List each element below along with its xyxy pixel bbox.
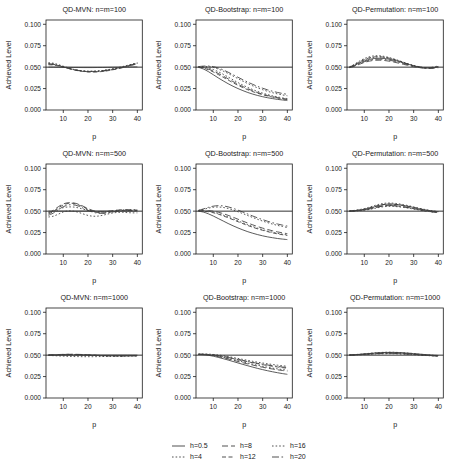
y-tick-label: 0.025 — [325, 373, 342, 380]
figure-legend: h=0.5h=8h=16h=4h=12h=20 — [0, 432, 451, 471]
y-axis-title: Achieved Level — [154, 40, 163, 89]
series-group — [48, 354, 137, 356]
series-group — [199, 66, 288, 101]
y-tick-label: 0.050 — [175, 64, 192, 71]
series-line — [199, 206, 288, 226]
series-line — [199, 67, 288, 99]
plot-frame — [196, 308, 292, 398]
y-tick-label: 0.000 — [25, 394, 42, 401]
x-axis-title: p — [242, 276, 246, 285]
x-tick-label: 30 — [259, 259, 267, 266]
y-tick-label: 0.000 — [25, 250, 42, 257]
legend-label: h=20 — [290, 453, 306, 460]
y-axis-title: Achieved Level — [305, 40, 314, 89]
legend-label: h=16 — [290, 442, 306, 449]
y-tick-label: 0.050 — [25, 352, 42, 359]
achieved-level-panel-figure: QD-MVN: n=m=1000.0000.0250.0500.0750.100… — [0, 0, 451, 471]
y-axis-title: Achieved Level — [305, 328, 314, 377]
y-tick-label: 0.075 — [25, 330, 42, 337]
y-tick-label: 0.025 — [25, 229, 42, 236]
y-tick-label: 0.050 — [325, 64, 342, 71]
y-tick-label: 0.075 — [325, 42, 342, 49]
plot-frame — [46, 308, 142, 398]
x-tick-label: 20 — [385, 403, 393, 410]
y-tick-label: 0.025 — [175, 373, 192, 380]
x-axis-title: p — [393, 420, 397, 429]
series-line — [199, 211, 288, 239]
y-axis-title: Achieved Level — [4, 328, 13, 377]
y-tick-label: 0.050 — [25, 208, 42, 215]
y-tick-label: 0.000 — [175, 250, 192, 257]
y-tick-label: 0.000 — [175, 394, 192, 401]
y-tick-label: 0.075 — [25, 42, 42, 49]
chart-panel: QD-Bootstrap: n=m=1000.0000.0250.0500.07… — [150, 0, 300, 144]
x-tick-label: 30 — [109, 115, 117, 122]
y-tick-label: 0.025 — [175, 85, 192, 92]
x-axis-title: p — [92, 420, 96, 429]
x-tick-label: 10 — [60, 259, 68, 266]
x-tick-label: 10 — [360, 259, 368, 266]
series-group — [48, 203, 137, 217]
panel-title: QD-Bootstrap: n=m=1000 — [203, 293, 285, 302]
x-tick-label: 10 — [210, 259, 218, 266]
y-tick-label: 0.000 — [325, 394, 342, 401]
x-tick-label: 40 — [134, 115, 142, 122]
x-tick-label: 20 — [235, 403, 243, 410]
panel-title: QD-MVN: n=m=500 — [62, 149, 126, 158]
panel-grid: QD-MVN: n=m=1000.0000.0250.0500.0750.100… — [0, 0, 451, 432]
x-tick-label: 20 — [385, 259, 393, 266]
y-tick-label: 0.050 — [25, 64, 42, 71]
series-group — [349, 56, 438, 69]
chart-panel: QD-Permutation: n=m=1000.0000.0250.0500.… — [301, 0, 451, 144]
x-tick-label: 30 — [410, 115, 418, 122]
legend-label: h=0.5 — [190, 442, 208, 449]
y-tick-label: 0.075 — [175, 42, 192, 49]
x-axis-title: p — [393, 276, 397, 285]
x-axis-title: p — [92, 276, 96, 285]
y-tick-label: 0.075 — [175, 186, 192, 193]
x-tick-label: 40 — [434, 403, 442, 410]
x-axis-title: p — [393, 132, 397, 141]
chart-panel: QD-Permutation: n=m=10000.0000.0250.0500… — [301, 288, 451, 432]
y-tick-label: 0.100 — [325, 165, 342, 172]
y-axis-title: Achieved Level — [154, 328, 163, 377]
y-tick-label: 0.075 — [25, 186, 42, 193]
series-line — [48, 203, 137, 214]
y-tick-label: 0.100 — [25, 165, 42, 172]
series-line — [199, 207, 288, 227]
y-tick-label: 0.100 — [325, 21, 342, 28]
legend-label: h=4 — [190, 453, 202, 460]
y-tick-label: 0.000 — [175, 106, 192, 113]
x-tick-label: 40 — [134, 403, 142, 410]
y-tick-label: 0.100 — [175, 165, 192, 172]
x-tick-label: 30 — [259, 115, 267, 122]
y-tick-label: 0.075 — [325, 186, 342, 193]
x-tick-label: 40 — [434, 115, 442, 122]
x-axis-title: p — [92, 132, 96, 141]
y-tick-label: 0.100 — [25, 21, 42, 28]
series-group — [199, 354, 288, 374]
x-tick-label: 30 — [410, 403, 418, 410]
y-axis-title: Achieved Level — [4, 40, 13, 89]
y-tick-label: 0.075 — [175, 330, 192, 337]
x-tick-label: 30 — [410, 259, 418, 266]
x-tick-label: 40 — [284, 259, 292, 266]
x-tick-label: 40 — [284, 403, 292, 410]
x-tick-label: 10 — [210, 115, 218, 122]
x-tick-label: 10 — [360, 403, 368, 410]
legend-label: h=8 — [240, 442, 252, 449]
y-tick-label: 0.050 — [325, 352, 342, 359]
panel-title: QD-MVN: n=m=1000 — [60, 293, 128, 302]
y-tick-label: 0.050 — [175, 352, 192, 359]
y-tick-label: 0.025 — [175, 229, 192, 236]
panel-title: QD-Bootstrap: n=m=100 — [205, 5, 283, 14]
panel-title: QD-MVN: n=m=100 — [62, 5, 126, 14]
chart-panel: QD-MVN: n=m=5000.0000.0250.0500.0750.100… — [0, 144, 150, 288]
y-tick-label: 0.000 — [325, 250, 342, 257]
x-tick-label: 20 — [385, 115, 393, 122]
chart-panel: QD-Bootstrap: n=m=5000.0000.0250.0500.07… — [150, 144, 300, 288]
plot-frame — [46, 164, 142, 254]
y-tick-label: 0.050 — [325, 208, 342, 215]
x-axis-title: p — [242, 132, 246, 141]
plot-frame — [347, 20, 443, 110]
